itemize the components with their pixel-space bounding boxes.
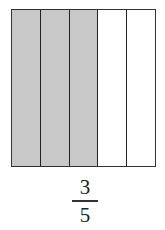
denominator: 5 [70,204,100,226]
part-2-shaded [41,10,70,166]
part-3-shaded [70,10,99,166]
part-5-unshaded [127,10,155,166]
fraction-rectangle [11,9,156,167]
fraction-bar [72,200,98,202]
numerator: 3 [70,176,100,198]
part-1-shaded [12,10,41,166]
part-4-unshaded [98,10,127,166]
fraction-label: 3 5 [70,176,100,226]
